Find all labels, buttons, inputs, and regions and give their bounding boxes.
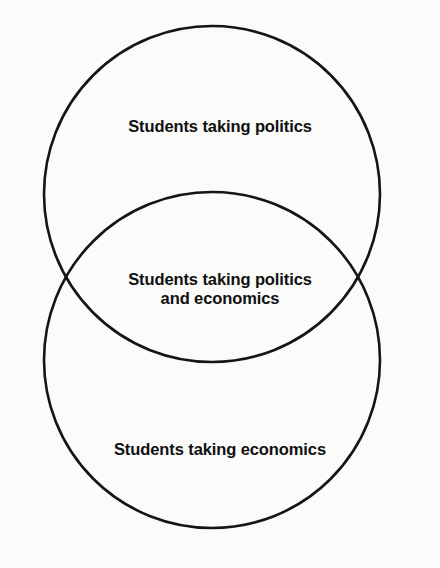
label-politics-only: Students taking politics <box>0 117 440 136</box>
venn-diagram: Students taking politics Students taking… <box>0 0 440 568</box>
circle-economics <box>44 192 380 528</box>
label-politics-and-economics: Students taking politics and economics <box>0 270 440 308</box>
circle-politics <box>44 26 380 362</box>
label-economics-only: Students taking economics <box>0 440 440 459</box>
